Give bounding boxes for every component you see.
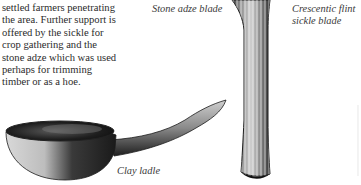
clay-ladle-illustration <box>6 100 226 180</box>
caption-crescentic-flint-sickle-blade: Crescentic flint sickle blade <box>292 3 355 27</box>
caption-clay-ladle: Clay ladle <box>117 165 160 177</box>
illustrations <box>0 0 361 185</box>
caption-line: Crescentic flint <box>292 3 355 15</box>
stone-adze-blade-illustration <box>232 0 270 179</box>
caption-line: sickle blade <box>292 15 355 27</box>
caption-stone-adze-blade: Stone adze blade <box>152 3 222 15</box>
